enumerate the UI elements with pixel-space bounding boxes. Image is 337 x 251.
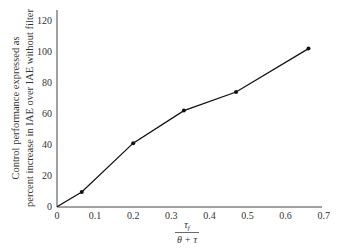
data-series — [57, 47, 310, 207]
x-tick-label: 0.6 — [279, 210, 292, 221]
y-tick-label: 100 — [37, 46, 52, 57]
y-tick-label: 60 — [42, 108, 52, 119]
y-axis-title-line-2: percent increase in IAE over IAE without… — [24, 9, 35, 207]
x-tick-label: 0.5 — [241, 210, 254, 221]
y-tick-labels: 020406080100120 — [37, 15, 52, 212]
x-tick-label: 0.4 — [203, 210, 216, 221]
data-point-marker — [80, 190, 84, 194]
y-tick-label: 20 — [42, 170, 52, 181]
series-line — [57, 49, 308, 207]
y-axis-title: Control performance expressed as percent… — [10, 9, 35, 207]
x-tick-label: 0.3 — [165, 210, 178, 221]
data-point-marker — [131, 141, 135, 145]
x-tick-labels: 00.10.20.30.40.50.60.7 — [55, 210, 330, 221]
data-point-marker — [234, 90, 238, 94]
line-chart: Control performance expressed as percent… — [0, 0, 337, 251]
x-tick-label: 0.1 — [89, 210, 102, 221]
y-axis-title-line-1: Control performance expressed as — [10, 36, 21, 179]
data-point-marker — [306, 47, 310, 51]
x-tick-label: 0.2 — [127, 210, 140, 221]
x-axis-title: τf θ + τ — [175, 219, 199, 245]
x-axis-title-denominator: θ + τ — [177, 234, 198, 245]
data-point-marker — [182, 109, 186, 113]
y-tick-label: 0 — [47, 201, 52, 212]
y-tick-label: 80 — [42, 77, 52, 88]
y-tick-label: 40 — [42, 139, 52, 150]
y-tick-label: 120 — [37, 15, 52, 26]
x-tick-label: 0 — [55, 210, 60, 221]
x-axis-title-numerator: τf — [184, 219, 191, 232]
x-tick-label: 0.7 — [317, 210, 330, 221]
